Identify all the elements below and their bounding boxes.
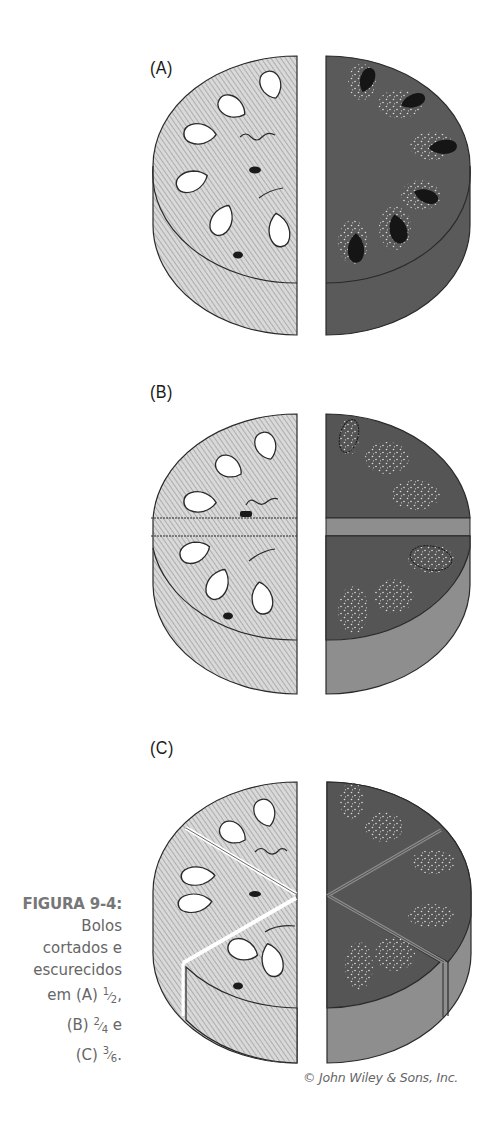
caption-text: em (A) — [47, 986, 102, 1004]
caption-line-4: em (A) 1⁄2, — [0, 981, 122, 1011]
copyright-credit: © John Wiley & Sons, Inc. — [303, 1070, 458, 1085]
caption-title: FIGURA 9-4: — [0, 893, 122, 915]
caption-text: e — [108, 1016, 122, 1034]
panel-a-dark-half — [326, 56, 470, 335]
caption-line-1: Bolos — [0, 915, 122, 937]
caption-text: , — [117, 986, 122, 1004]
panel-c-dark-half — [327, 782, 471, 1063]
panel-a-light-half — [153, 56, 297, 335]
caption-text: (B) — [67, 1016, 94, 1034]
caption-line-3: escurecidos — [0, 959, 122, 981]
caption-line-5: (B) 2⁄4 e — [0, 1011, 122, 1041]
caption-text: . — [117, 1045, 122, 1063]
fraction-three-sixths: 3⁄6 — [103, 1049, 118, 1062]
fraction-numerator: 1 — [103, 986, 109, 997]
caption-line-2: cortados e — [0, 937, 122, 959]
fraction-half: 1⁄2 — [103, 990, 118, 1003]
fraction-numerator: 3 — [103, 1046, 109, 1057]
figure-caption: FIGURA 9-4: Bolos cortados e escurecidos… — [0, 893, 122, 1071]
panel-c-light-half — [153, 782, 297, 1063]
fraction-two-quarters: 2⁄4 — [93, 1020, 108, 1033]
fraction-numerator: 2 — [93, 1016, 99, 1027]
panel-b-dark-half — [326, 414, 470, 694]
panel-b-light-half — [151, 414, 297, 694]
caption-text: (C) — [76, 1045, 103, 1063]
caption-line-6: (C) 3⁄6. — [0, 1041, 122, 1071]
